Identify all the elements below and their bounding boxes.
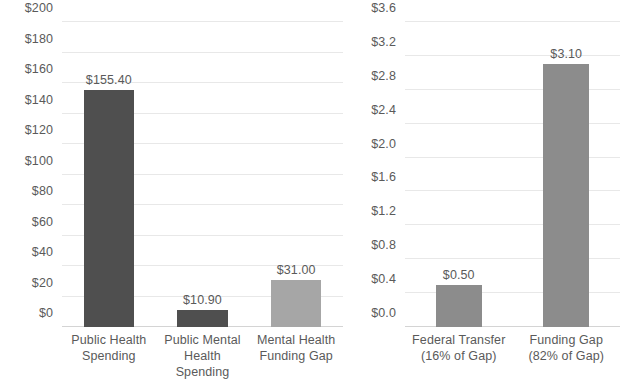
bars-right: $0.50$3.10 <box>405 22 620 327</box>
y-tick-label: $140 <box>25 93 53 107</box>
y-tick-label: $0 <box>39 306 53 320</box>
bar[interactable] <box>271 280 321 327</box>
y-tick-label: $100 <box>25 154 53 168</box>
x-category-label: Public Health Spending <box>62 332 156 364</box>
y-tick-label: $40 <box>32 245 53 259</box>
bar-value-label: $10.90 <box>183 293 222 307</box>
y-tick-label: $80 <box>32 184 53 198</box>
bar[interactable] <box>177 310 227 327</box>
bar-value-label: $3.10 <box>550 47 582 61</box>
y-tick-label: $1.6 <box>371 170 396 184</box>
bar[interactable] <box>84 90 134 327</box>
bar[interactable] <box>543 64 589 327</box>
x-axis-categories-right: Federal Transfer (16% of Gap)Funding Gap… <box>405 332 620 378</box>
x-category-label: Funding Gap (82% of Gap) <box>513 332 621 364</box>
chart-panel-left: $0$20$40$60$80$100$120$140$160$180$200 $… <box>0 0 352 386</box>
bar-group[interactable]: $10.90 <box>177 310 227 327</box>
y-tick-label: $2.4 <box>371 103 396 117</box>
bar-group[interactable]: $0.50 <box>436 285 482 327</box>
bar-value-label: $155.40 <box>86 73 132 87</box>
bar-group[interactable]: $155.40 <box>84 90 134 327</box>
y-tick-label: $1.2 <box>371 204 396 218</box>
y-tick-label: $60 <box>32 215 53 229</box>
bar-value-label: $31.00 <box>277 263 316 277</box>
x-category-label: Federal Transfer (16% of Gap) <box>405 332 513 364</box>
y-tick-label: $200 <box>25 1 53 15</box>
y-tick-label: $2.0 <box>371 137 396 151</box>
x-axis-categories-left: Public Health SpendingPublic Mental Heal… <box>62 332 343 378</box>
plot-area-right: $0.0$0.4$0.8$1.2$1.6$2.0$2.4$2.8$3.2$3.6… <box>405 22 620 327</box>
y-tick-label: $120 <box>25 123 53 137</box>
dual-bar-chart-figure: $0$20$40$60$80$100$120$140$160$180$200 $… <box>0 0 633 386</box>
y-tick-label: $3.6 <box>371 1 396 15</box>
bar[interactable] <box>436 285 482 327</box>
bar-group[interactable]: $3.10 <box>543 64 589 327</box>
bars-left: $155.40$10.90$31.00 <box>62 22 343 327</box>
y-tick-label: $180 <box>25 32 53 46</box>
y-tick-label: $160 <box>25 62 53 76</box>
y-tick-label: $0.4 <box>371 272 396 286</box>
chart-panel-right: $0.0$0.4$0.8$1.2$1.6$2.0$2.4$2.8$3.2$3.6… <box>352 0 633 386</box>
y-tick-label: $0.0 <box>371 306 396 320</box>
y-tick-label: $2.8 <box>371 69 396 83</box>
x-category-label: Mental Health Funding Gap <box>249 332 343 364</box>
bar-group[interactable]: $31.00 <box>271 280 321 327</box>
y-tick-label: $3.2 <box>371 35 396 49</box>
y-tick-label: $0.8 <box>371 238 396 252</box>
y-tick-label: $20 <box>32 276 53 290</box>
x-category-label: Public Mental Health Spending <box>156 332 250 380</box>
plot-area-left: $0$20$40$60$80$100$120$140$160$180$200 $… <box>62 22 343 327</box>
bar-value-label: $0.50 <box>443 268 475 282</box>
